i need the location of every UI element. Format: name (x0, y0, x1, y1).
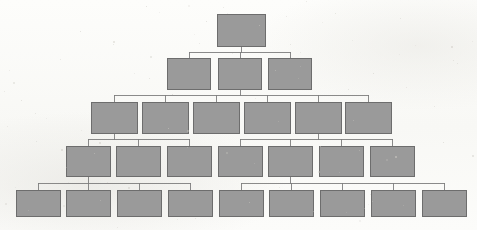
tree-node-box[interactable] (371, 147, 415, 177)
tree-node[interactable] (67, 147, 111, 177)
tree-node-box[interactable] (219, 59, 262, 90)
tree-node[interactable] (17, 191, 61, 217)
tree-node[interactable] (194, 103, 240, 134)
tree-node[interactable] (320, 147, 364, 177)
tree-node[interactable] (245, 103, 291, 134)
tree-node-box[interactable] (269, 59, 312, 90)
tree-node-box[interactable] (117, 147, 161, 177)
tree-node-box[interactable] (296, 103, 342, 134)
tree-node[interactable] (270, 191, 314, 217)
tree-node-box[interactable] (220, 191, 264, 217)
tree-node-box[interactable] (372, 191, 416, 217)
tree-node-box[interactable] (92, 103, 138, 134)
tree-node-box[interactable] (269, 147, 313, 177)
tree-node[interactable] (219, 147, 263, 177)
tree-node[interactable] (168, 59, 211, 90)
tree-node-box[interactable] (320, 147, 364, 177)
tree-node-box[interactable] (118, 191, 162, 217)
tree-node[interactable] (372, 191, 416, 217)
tree-node-box[interactable] (17, 191, 61, 217)
tree-node[interactable] (219, 59, 262, 90)
diagram-canvas (0, 0, 477, 230)
tree-node-box[interactable] (346, 103, 392, 134)
tree-node[interactable] (220, 191, 264, 217)
tree-node[interactable] (269, 147, 313, 177)
tree-node-box[interactable] (321, 191, 365, 217)
tree-node[interactable] (296, 103, 342, 134)
tree-node-box[interactable] (143, 103, 189, 134)
tree-diagram (0, 0, 477, 230)
tree-node[interactable] (346, 103, 392, 134)
tree-node[interactable] (423, 191, 467, 217)
tree-node-box[interactable] (270, 191, 314, 217)
tree-node-box[interactable] (67, 147, 111, 177)
tree-node[interactable] (169, 191, 213, 217)
tree-node[interactable] (168, 147, 212, 177)
tree-node[interactable] (321, 191, 365, 217)
tree-node-box[interactable] (218, 15, 266, 47)
tree-node[interactable] (67, 191, 111, 217)
tree-node-box[interactable] (219, 147, 263, 177)
tree-node-box[interactable] (423, 191, 467, 217)
tree-node[interactable] (371, 147, 415, 177)
tree-node-box[interactable] (168, 147, 212, 177)
tree-node[interactable] (118, 191, 162, 217)
tree-node[interactable] (143, 103, 189, 134)
tree-node[interactable] (218, 15, 266, 47)
tree-node-box[interactable] (245, 103, 291, 134)
tree-node[interactable] (269, 59, 312, 90)
tree-node-box[interactable] (169, 191, 213, 217)
tree-node-box[interactable] (67, 191, 111, 217)
tree-node[interactable] (92, 103, 138, 134)
tree-node[interactable] (117, 147, 161, 177)
tree-node-box[interactable] (168, 59, 211, 90)
tree-node-box[interactable] (194, 103, 240, 134)
